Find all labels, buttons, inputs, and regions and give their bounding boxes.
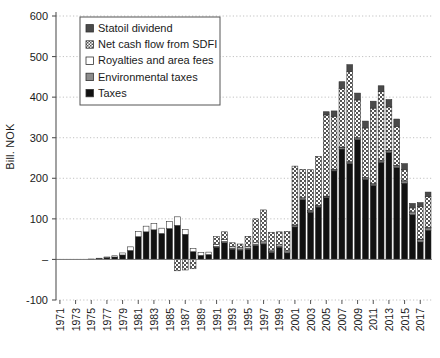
- bar-group: [402, 164, 408, 260]
- bar-segment: [261, 210, 267, 241]
- x-tick-label: 1971: [54, 308, 66, 332]
- bar-group: [120, 253, 126, 259]
- bar-group: [417, 203, 423, 260]
- x-tick-label: 1985: [164, 308, 176, 332]
- y-tick-label: 200: [30, 172, 48, 184]
- bar-segment: [151, 223, 157, 229]
- bar-segment: [104, 257, 110, 258]
- bar-segment: [175, 217, 181, 226]
- bar-segment: [229, 249, 235, 259]
- x-tick-label: 1997: [258, 308, 270, 332]
- x-tick-label: 1977: [101, 308, 113, 332]
- legend-label: Royalties and area fees: [98, 54, 214, 66]
- bar-group: [198, 253, 204, 260]
- bar-group: [214, 237, 220, 260]
- bar-group: [245, 236, 251, 259]
- y-axis-title: Bill. NOK: [4, 123, 16, 170]
- x-tick-label: 1975: [85, 308, 97, 332]
- bar-segment: [269, 232, 275, 250]
- bar-group: [308, 170, 314, 260]
- x-tick-label: 1993: [226, 308, 238, 332]
- bar-segment: [269, 253, 275, 260]
- x-tick-label: 1987: [179, 308, 191, 332]
- bar-segment: [120, 253, 126, 255]
- bar-group: [316, 156, 322, 259]
- bar-segment: [347, 72, 353, 162]
- bar-segment: [394, 126, 400, 165]
- x-tick-label: 1981: [132, 308, 144, 332]
- bar-segment: [370, 186, 376, 260]
- bar-segment: [370, 101, 376, 108]
- bar-group: [331, 111, 337, 259]
- bar-segment: [292, 227, 298, 259]
- legend-label: Statoil dividend: [98, 22, 173, 34]
- bar-segment: [151, 230, 157, 260]
- bar-group: [370, 101, 376, 259]
- bar-segment: [355, 140, 361, 260]
- bar-segment: [128, 247, 134, 251]
- bar-segment: [386, 100, 392, 107]
- bar-segment: [355, 100, 361, 138]
- bar-segment: [363, 121, 369, 128]
- bar-segment: [245, 236, 251, 246]
- x-tick-label: 2001: [289, 308, 301, 332]
- bar-segment: [128, 251, 134, 260]
- bar-segment: [347, 65, 353, 72]
- bar-group: [112, 256, 118, 260]
- legend-item: Net cash flow from SDFI: [86, 38, 217, 50]
- bar-segment: [323, 198, 329, 260]
- bar-segment: [182, 234, 188, 259]
- bar-segment: [222, 240, 228, 242]
- bar-segment: [331, 171, 337, 259]
- bar-group: [284, 231, 290, 259]
- bar-group: [386, 100, 392, 260]
- x-tick-label: 2007: [336, 308, 348, 332]
- bar-segment: [143, 226, 149, 232]
- y-tick-label: 300: [30, 132, 48, 144]
- x-tick-label: 1983: [148, 308, 160, 332]
- bar-segment: [410, 215, 416, 260]
- bar-segment: [402, 170, 408, 181]
- bar-group: [378, 86, 384, 260]
- bar-segment: [417, 242, 423, 259]
- bar-segment: [276, 247, 282, 259]
- bar-segment: [253, 219, 259, 243]
- bar-segment: [190, 252, 196, 260]
- bar-segment: [308, 212, 314, 259]
- bar-segment: [378, 86, 384, 92]
- bar-segment: [143, 232, 149, 260]
- bar-group: [355, 93, 361, 259]
- x-tick-label: 2011: [367, 308, 379, 331]
- bar-segment: [316, 156, 322, 205]
- bar-segment: [417, 203, 423, 207]
- bar-segment: [120, 255, 126, 259]
- bar-segment: [425, 230, 431, 259]
- bar-segment: [308, 170, 314, 211]
- bar-segment: [323, 115, 329, 196]
- legend-label: Environmental taxes: [98, 71, 198, 83]
- y-tick-label: –: [42, 253, 49, 265]
- x-tick-label: 2017: [414, 308, 426, 332]
- bar-segment: [135, 231, 141, 236]
- bar-segment: [167, 222, 173, 229]
- bar-segment: [112, 256, 118, 257]
- x-tick-label: 2003: [305, 308, 317, 332]
- bar-group: [425, 192, 431, 259]
- bar-segment: [214, 237, 220, 245]
- bar-group: [190, 248, 196, 268]
- bar-segment: [229, 243, 235, 247]
- bar-segment: [410, 203, 416, 207]
- bar-segment: [167, 229, 173, 260]
- bar-segment: [425, 197, 431, 228]
- bar-segment: [276, 232, 282, 245]
- bar-segment: [135, 237, 141, 260]
- bar-group: [206, 252, 212, 259]
- legend-item: Royalties and area fees: [86, 54, 214, 66]
- legend-swatch: [86, 89, 93, 96]
- bar-segment: [323, 112, 329, 115]
- bar-group: [300, 169, 306, 259]
- bar-segment: [175, 259, 181, 270]
- bar-group: [182, 229, 188, 270]
- bar-segment: [410, 208, 416, 212]
- bar-segment: [386, 153, 392, 260]
